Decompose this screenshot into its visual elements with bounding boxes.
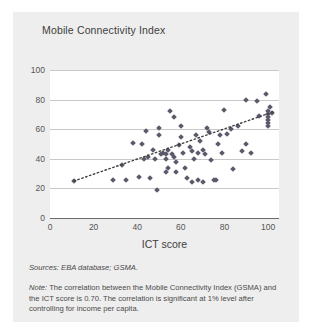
y-tick-label: 100 [31,65,45,75]
y-tick-label: 80 [36,95,45,105]
x-axis-label: ICT score [50,238,279,250]
x-tick-label: 0 [48,222,53,232]
sources-text: Sources: EBA database; GSMA. [29,263,138,272]
y-tick-label: 20 [36,183,45,193]
scatter-plot: 020406080100 020406080100 [50,70,279,218]
note-text: Note: The correlation between the Mobile… [29,283,281,315]
chart-title: Mobile Connectivity Index [42,24,165,36]
x-tick-label: 80 [220,222,229,232]
note-body: The correlation between the Mobile Conne… [29,283,276,313]
trendline-path [74,111,275,181]
y-tick-label: 60 [36,124,45,134]
x-tick-label: 60 [176,222,185,232]
x-tick-label: 20 [89,222,98,232]
y-tick-label: 0 [40,213,45,223]
x-tick-label: 40 [133,222,142,232]
note-label: Note: [29,283,47,292]
x-tick-label: 100 [261,222,275,232]
trendline [50,70,279,218]
y-tick-label: 40 [36,154,45,164]
